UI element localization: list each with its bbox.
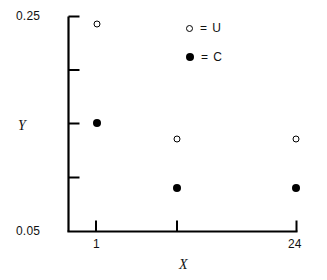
y-axis-title: Y	[18, 119, 26, 133]
data-point-u-3	[293, 136, 300, 143]
data-point-u-2	[174, 136, 181, 143]
legend-entry-u: = U	[186, 22, 222, 34]
filled-circle-icon	[186, 53, 194, 61]
legend-entry-c: = C	[186, 51, 223, 63]
chart-axes-svg	[0, 0, 327, 280]
y-axis-top-tick-label: 0.25	[16, 10, 40, 22]
scatter-chart: 0.25 0.05 1 24 Y X = U = C	[0, 0, 327, 280]
data-point-c-1	[93, 119, 101, 127]
data-point-c-2	[173, 184, 181, 192]
legend-label-c: = C	[201, 51, 223, 63]
legend-label-u: = U	[200, 22, 222, 34]
x-axis-left-tick-label: 1	[93, 238, 100, 250]
open-circle-icon	[186, 25, 193, 32]
x-axis-title: X	[179, 258, 188, 272]
data-point-c-3	[292, 184, 300, 192]
data-point-u-1	[94, 21, 101, 28]
x-axis-right-tick-label: 24	[288, 238, 302, 250]
y-axis-bottom-tick-label: 0.05	[16, 225, 40, 237]
